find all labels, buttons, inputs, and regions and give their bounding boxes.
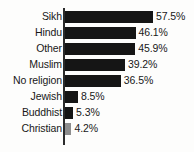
category-label: Christian: [21, 121, 62, 137]
category-label: Jewish: [31, 89, 63, 105]
bar-container: [65, 107, 73, 119]
bar-value-label: 45.9%: [138, 41, 167, 57]
bar-row: Other45.9%: [0, 41, 194, 57]
bar-value-label: 57.5%: [156, 9, 185, 25]
bar-container: [65, 27, 136, 39]
bar-row: No religion36.5%: [0, 73, 194, 89]
bar-row: Muslim39.2%: [0, 57, 194, 73]
category-label: No religion: [13, 73, 62, 89]
bar: [65, 59, 125, 71]
bar-chart: Sikh57.5%Hindu46.1%Other45.9%Muslim39.2%…: [0, 0, 194, 152]
bar: [65, 27, 136, 39]
category-label: Sikh: [42, 9, 62, 25]
bar-container: [65, 91, 78, 103]
bar-rows: Sikh57.5%Hindu46.1%Other45.9%Muslim39.2%…: [0, 0, 194, 152]
bar-row: Sikh57.5%: [0, 9, 194, 25]
category-label: Muslim: [29, 57, 62, 73]
bar: [65, 43, 135, 55]
bar: [65, 91, 78, 103]
category-label: Buddhist: [22, 105, 62, 121]
bar-value-label: 8.5%: [81, 89, 105, 105]
bar-value-label: 39.2%: [128, 57, 157, 73]
bar-container: [65, 11, 153, 23]
bar-container: [65, 59, 125, 71]
bar: [65, 107, 73, 119]
bar: [65, 123, 71, 135]
bar-value-label: 4.2%: [74, 121, 98, 137]
bar-row: Buddhist5.3%: [0, 105, 194, 121]
bar: [65, 11, 153, 23]
bar-row: Jewish8.5%: [0, 89, 194, 105]
bar-row: Christian4.2%: [0, 121, 194, 137]
category-label: Other: [36, 41, 62, 57]
bar-value-label: 36.5%: [124, 73, 153, 89]
bar-row: Hindu46.1%: [0, 25, 194, 41]
bar: [65, 75, 121, 87]
bar-value-label: 5.3%: [76, 105, 100, 121]
bar-container: [65, 43, 135, 55]
bar-container: [65, 75, 121, 87]
bar-container: [65, 123, 71, 135]
category-label: Hindu: [35, 25, 62, 41]
bar-value-label: 46.1%: [139, 25, 168, 41]
